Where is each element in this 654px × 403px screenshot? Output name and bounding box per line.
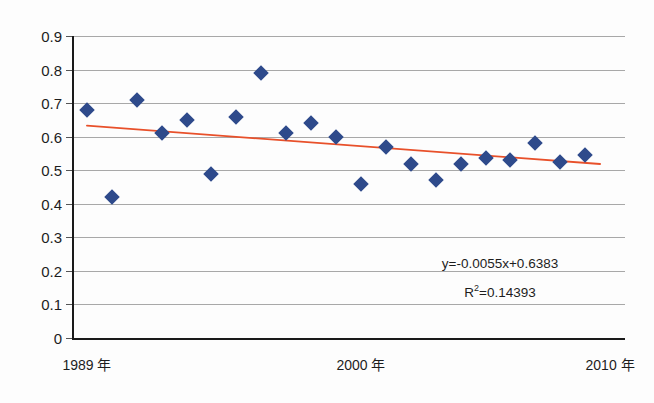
data-point-marker bbox=[229, 109, 245, 125]
gridline bbox=[72, 36, 625, 37]
trendline-equation-label: y=-0.0055x+0.6383 bbox=[442, 256, 558, 271]
data-point-marker bbox=[353, 176, 369, 192]
data-point-marker bbox=[79, 102, 95, 118]
data-point-marker bbox=[179, 112, 195, 128]
data-point-marker bbox=[577, 147, 593, 163]
data-point-marker bbox=[278, 126, 294, 142]
x-axis-tick-label: 2000 年 bbox=[336, 354, 385, 374]
gridline bbox=[72, 304, 625, 305]
r-squared-value: =0.14393 bbox=[479, 285, 536, 300]
y-axis-tick-label: 0.4 bbox=[20, 196, 62, 211]
r-squared-symbol: R bbox=[464, 285, 474, 300]
gridline bbox=[72, 70, 625, 71]
data-point-marker bbox=[403, 156, 419, 172]
y-axis-tick-label: 0.2 bbox=[20, 263, 62, 278]
x-axis-tick-label: 2010 年 bbox=[586, 354, 635, 374]
x-axis-tick-label: 1989 年 bbox=[62, 354, 111, 374]
y-axis-tick-label: 0.1 bbox=[20, 297, 62, 312]
data-point-marker bbox=[428, 173, 444, 189]
y-axis-tick-label: 0.3 bbox=[20, 230, 62, 245]
y-axis-tick-label: 0.9 bbox=[20, 29, 62, 44]
data-point-marker bbox=[328, 129, 344, 145]
y-axis-line bbox=[72, 36, 74, 340]
gridline bbox=[72, 170, 625, 171]
data-point-marker bbox=[204, 166, 220, 182]
y-axis-tick-label: 0.5 bbox=[20, 163, 62, 178]
data-point-marker bbox=[478, 151, 494, 167]
data-point-marker bbox=[503, 152, 519, 168]
data-point-marker bbox=[254, 65, 270, 81]
data-point-marker bbox=[528, 136, 544, 152]
data-point-marker bbox=[303, 115, 319, 131]
data-point-marker bbox=[453, 156, 469, 172]
data-point-marker bbox=[154, 126, 170, 142]
r-squared-label: R2=0.14393 bbox=[464, 283, 535, 300]
gridline bbox=[72, 237, 625, 238]
y-axis-tick-label: 0.7 bbox=[20, 96, 62, 111]
y-axis-tick-label: 0.6 bbox=[20, 129, 62, 144]
data-point-marker bbox=[378, 139, 394, 155]
gridline bbox=[72, 271, 625, 272]
gridline bbox=[72, 204, 625, 205]
gridline bbox=[72, 137, 625, 138]
data-point-marker bbox=[552, 154, 568, 170]
y-axis-tick-label: 0.8 bbox=[20, 62, 62, 77]
gridline bbox=[72, 103, 625, 104]
scatter-chart: 0.90.80.70.60.50.40.30.20.10 1989 年2000 … bbox=[0, 0, 654, 403]
trendline-layer bbox=[0, 0, 654, 403]
data-point-marker bbox=[104, 189, 120, 205]
x-axis-line bbox=[72, 338, 625, 340]
data-point-marker bbox=[129, 92, 145, 108]
y-axis-tick-label: 0 bbox=[20, 331, 62, 346]
